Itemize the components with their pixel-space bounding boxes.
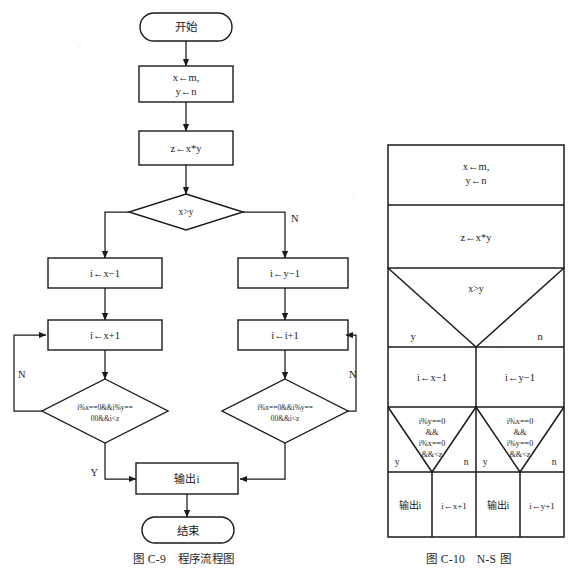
ns-init-label-1: x←m, [463,161,490,172]
ns-left-assign-label: i←x−1 [417,372,447,383]
ns-right-cond-line-3: i%y==0 [507,439,534,448]
figure-page: 开始 x←m, y←n z←x*y x>y N i←x−1 i←y−1 i←x+… [0,0,568,572]
ns-left-cond-line-2: && [426,428,439,437]
flow-decision-xy-label: x>y [179,207,194,217]
ns-cell-out-left: 输出i [399,499,422,511]
edge-label-left-loop-no: N [18,369,26,380]
ns-right-cond-line-2: && [514,428,527,437]
edge-right-yes-output [240,443,285,479]
flow-right-step-label: i←i+1 [271,330,299,341]
flow-right-init-label: i←y−1 [270,268,300,279]
flow-init-label-1: x←m, [173,72,200,83]
ns-right-cond-yes-label: y [483,457,488,467]
flow-start-label: 开始 [175,20,198,33]
flow-init-label-2: y←n [176,86,198,97]
ns-right-cond-line-4: &&<z [510,450,531,459]
flow-left-step-label: i←x+1 [90,330,120,341]
ns-cell-out-right: 输出i [487,499,510,511]
edge-xy-yes [105,212,129,258]
edge-left-yes-output [105,443,136,479]
ns-condition-no-label: n [537,331,543,342]
edge-label-right-loop-no: N [349,369,357,380]
edge-xy-no [243,212,285,258]
ns-condition-yes-label: y [410,331,416,342]
flow-left-init-label: i←x−1 [90,268,120,279]
ns-left-cond-no-label: n [464,457,469,467]
flow-right-cond-label-1: i%x==0&&i%y== [257,403,313,412]
ns-right-cond-line-1: i%x==0 [507,417,534,426]
ns-left-cond-line-1: i%y==0 [419,417,446,426]
ns-condition-label: x>y [468,283,484,294]
edge-label-left-yes: Y [90,467,98,478]
ns-left-cond-line-3: i%x==0 [419,439,446,448]
flow-left-cond-label-2: 00&&i<z [91,414,120,423]
ns-init-label-2: y←n [466,175,488,186]
ns-left-cond-yes-label: y [395,457,400,467]
ns-right-cond-no-label: n [552,457,557,467]
ns-cell-inc-left: i←x+1 [441,501,467,511]
diagram-canvas: 开始 x←m, y←n z←x*y x>y N i←x−1 i←y−1 i←x+… [0,0,568,572]
flowchart-caption: 图 C-9 程序流程图 [133,550,235,566]
ns-diagram-caption: 图 C-10 N-S 图 [426,550,511,566]
flow-end-label: 结束 [177,525,200,537]
ns-left-cond-line-4: &&<z [422,450,443,459]
flow-output-label: 输出i [174,472,199,485]
flow-product-label: z←x*y [171,143,203,154]
flow-right-cond-label-2: 00&&i<z [271,414,300,423]
edge-label-xy-no: N [291,213,299,224]
ns-right-assign-label: i←y−1 [505,372,535,383]
ns-cell-inc-right: i←y+1 [529,501,555,511]
flow-left-cond-label-1: i%x==0&&i%y== [77,403,133,412]
ns-product-label: z←x*y [461,232,493,243]
